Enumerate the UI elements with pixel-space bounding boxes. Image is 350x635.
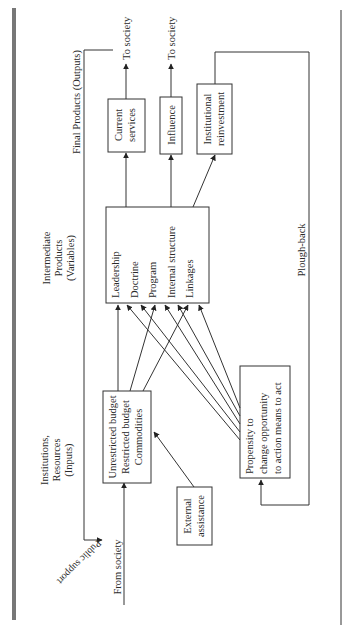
- current-services-line: Current: [113, 109, 124, 141]
- intermediate-item: Linkages: [184, 260, 195, 299]
- intermediate-line-2: Products: [53, 240, 64, 277]
- arrow-external-inputs: [154, 432, 194, 487]
- influence-label: Influence: [166, 105, 177, 145]
- intermediate-item: Doctrine: [129, 261, 140, 298]
- arrow-propensity-2: [141, 305, 240, 432]
- arrow-to-reinvestment: [193, 155, 215, 207]
- inputs-line-2: Resources: [51, 438, 62, 481]
- propensity-line: Propensity to: [244, 418, 255, 474]
- plough-back-label: Plough-back: [296, 223, 307, 277]
- input-item: Commodities: [133, 409, 144, 466]
- inputs-line-1: Institutions,: [39, 435, 50, 485]
- intermediate-section-label: Intermediate Products (Variables): [41, 231, 77, 284]
- inputs-section-label: Institutions, Resources (Inputs): [39, 435, 75, 485]
- to-society-label-2: To society: [166, 16, 177, 60]
- arrow-propensity-5: [199, 305, 240, 408]
- current-services-line: services: [126, 108, 137, 142]
- propensity-line: change opportunity: [258, 392, 269, 474]
- input-item: Unrestricted budget: [107, 395, 118, 478]
- inputs-line-3: (Inputs): [63, 443, 75, 477]
- arrow-propensity-4: [178, 305, 240, 416]
- intermediate-item: Program: [147, 262, 158, 298]
- intermediate-line-1: Intermediate: [41, 231, 52, 284]
- to-society-label-1: To society: [121, 16, 132, 60]
- outputs-section-label: Final Products (Outputs): [71, 50, 83, 154]
- arrow-inputs-linkages: [143, 305, 188, 391]
- from-society-label: From society: [112, 539, 123, 595]
- propensity-line: to action means to act: [272, 382, 283, 474]
- reinvestment-line: Institutional: [202, 94, 213, 145]
- public-support-label: Public support: [55, 538, 104, 587]
- intermediate-item: Leadership: [110, 251, 121, 298]
- reinvestment-line: reinvestment: [215, 92, 226, 146]
- intermediate-item: Internal structure: [166, 226, 177, 298]
- intermediate-line-3: (Variables): [65, 234, 77, 281]
- diagram-canvas: Institutions, Resources (Inputs) Interme…: [0, 0, 350, 635]
- external-line: assistance: [195, 495, 206, 537]
- input-item: Restricted budget: [120, 400, 131, 474]
- external-line: External: [182, 498, 193, 534]
